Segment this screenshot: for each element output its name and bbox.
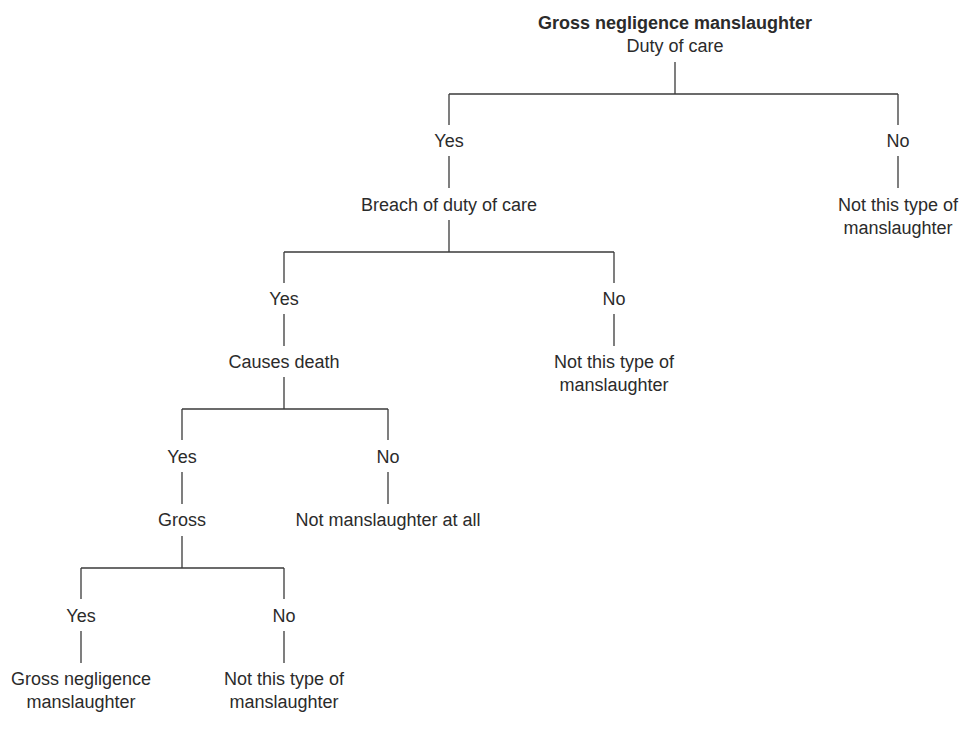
outcome-not-this-type-2b: manslaughter bbox=[559, 374, 668, 397]
level4-yes-label: Yes bbox=[66, 605, 95, 628]
level4-no-label: No bbox=[272, 605, 295, 628]
outcome-not-this-type-2a: Not this type of bbox=[554, 351, 674, 374]
level3-no-label: No bbox=[376, 446, 399, 469]
level1-yes-label: Yes bbox=[434, 130, 463, 153]
level2-yes-label: Yes bbox=[269, 288, 298, 311]
node-gross: Gross bbox=[158, 509, 206, 532]
outcome-gross-negligence-a: Gross negligence bbox=[11, 668, 151, 691]
outcome-gross-negligence-b: manslaughter bbox=[26, 691, 135, 714]
outcome-not-manslaughter-at-all: Not manslaughter at all bbox=[295, 509, 480, 532]
outcome-not-this-type-1a: Not this type of bbox=[838, 194, 958, 217]
connector-lines bbox=[0, 0, 973, 737]
outcome-not-this-type-1b: manslaughter bbox=[843, 217, 952, 240]
node-causes-death: Causes death bbox=[228, 351, 339, 374]
diagram-title: Gross negligence manslaughter bbox=[538, 12, 812, 35]
level1-no-label: No bbox=[886, 130, 909, 153]
level2-no-label: No bbox=[602, 288, 625, 311]
outcome-not-this-type-4a: Not this type of bbox=[224, 668, 344, 691]
node-breach-of-duty: Breach of duty of care bbox=[361, 194, 537, 217]
level3-yes-label: Yes bbox=[167, 446, 196, 469]
root-node-duty-of-care: Duty of care bbox=[626, 35, 723, 58]
outcome-not-this-type-4b: manslaughter bbox=[229, 691, 338, 714]
